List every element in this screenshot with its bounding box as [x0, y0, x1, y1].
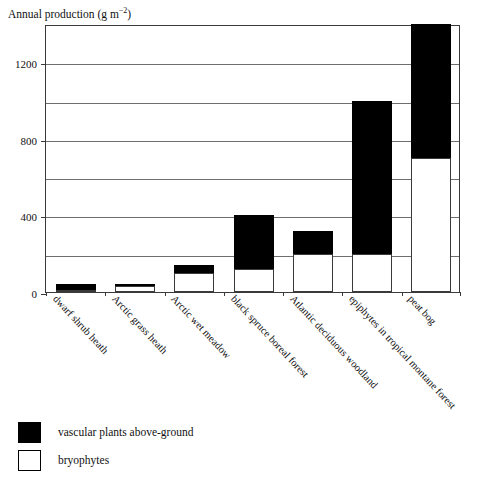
- bar-segment-bryophytes: [56, 290, 96, 292]
- y-axis-tick: [41, 64, 46, 65]
- legend-label: bryophytes: [58, 454, 109, 466]
- x-axis-label-1: dwarf shrub heath: [51, 293, 111, 356]
- bar-3: [174, 265, 214, 292]
- x-axis-label-3: Arctic wet meadow: [169, 293, 233, 361]
- bar-6: [352, 101, 392, 292]
- bar-segment-bryophytes: [352, 254, 392, 292]
- chart-container: Annual production (g m−2) 04008001200 dw…: [0, 0, 485, 488]
- x-axis-label-6: epiphytes in tropical montane forest: [347, 293, 458, 411]
- legend-item-2: bryophytes: [18, 446, 338, 474]
- gridline: [46, 179, 459, 180]
- bar-segment-vascular: [174, 265, 214, 273]
- y-axis-tick-label: 1200: [15, 58, 37, 70]
- bar-segment-vascular: [411, 24, 451, 158]
- y-axis-title-main: Annual production (g m: [8, 8, 119, 20]
- bar-4: [234, 215, 274, 292]
- x-axis-label-7: peat bog: [406, 293, 439, 327]
- bar-segment-bryophytes: [115, 286, 155, 292]
- bar-1: [56, 284, 96, 292]
- y-axis-tick-label: 0: [32, 288, 38, 300]
- y-axis-tick-label: 400: [21, 211, 38, 223]
- gridline: [46, 141, 459, 142]
- chart-legend: vascular plants above-groundbryophytes: [18, 418, 338, 474]
- bar-segment-bryophytes: [411, 158, 451, 292]
- x-axis-labels: dwarf shrub heathArctic grass heathArcti…: [45, 293, 485, 418]
- y-axis-title: Annual production (g m−2): [8, 4, 131, 21]
- y-axis-tick: [41, 141, 46, 142]
- x-axis-label-2: Arctic grass heath: [110, 293, 170, 356]
- plot-area: 04008001200: [45, 25, 460, 293]
- bar-segment-bryophytes: [174, 273, 214, 292]
- bar-7: [411, 24, 451, 292]
- bar-segment-vascular: [293, 231, 333, 254]
- bar-segment-bryophytes: [293, 254, 333, 292]
- legend-swatch-vascular-icon: [18, 422, 41, 443]
- gridline: [46, 64, 459, 65]
- bar-5: [293, 231, 333, 292]
- y-axis-tick-label: 800: [21, 135, 38, 147]
- bar-segment-bryophytes: [234, 269, 274, 292]
- y-axis-title-close: ): [127, 8, 131, 20]
- bar-segment-vascular: [234, 215, 274, 269]
- y-axis-tick: [41, 217, 46, 218]
- legend-swatch-bryophytes-icon: [18, 450, 41, 471]
- legend-label: vascular plants above-ground: [58, 426, 193, 438]
- bar-2: [115, 284, 155, 292]
- legend-item-1: vascular plants above-ground: [18, 418, 338, 446]
- gridline: [46, 103, 459, 104]
- bar-segment-vascular: [352, 101, 392, 254]
